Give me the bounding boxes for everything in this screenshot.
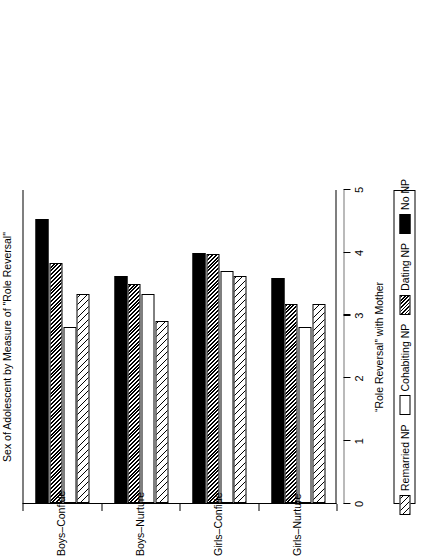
category-tick <box>101 504 102 511</box>
category-tick <box>336 504 337 511</box>
figure-root: Sex of Adolescent by Measure of "Role Re… <box>0 0 423 556</box>
bar <box>312 304 325 503</box>
bar <box>127 284 140 503</box>
bar <box>233 276 246 503</box>
value-axis-title: “Role Reversal” with Mother <box>372 190 384 504</box>
value-tick <box>343 440 350 441</box>
white-swatch-icon <box>399 395 410 415</box>
value-tick <box>343 252 350 253</box>
bar <box>192 253 205 503</box>
bar <box>155 321 168 503</box>
category-axis-title: Sex of Adolescent by Measure of "Role Re… <box>0 190 12 504</box>
value-tick <box>343 314 350 315</box>
bar <box>284 304 297 503</box>
category-tick <box>22 504 23 511</box>
value-tick-label: 0 <box>352 489 364 519</box>
category-label: Girls–Confide <box>211 510 223 556</box>
bar <box>114 276 127 503</box>
legend-label: No NP <box>398 179 410 210</box>
bar <box>63 327 76 503</box>
value-tick-label: 4 <box>352 238 364 268</box>
value-tick <box>343 503 350 504</box>
bar <box>271 278 284 503</box>
value-tick-label: 5 <box>352 175 364 205</box>
plot-area <box>22 190 336 504</box>
category-label: Girls–Nurture <box>290 510 302 556</box>
value-tick-label: 2 <box>352 363 364 393</box>
category-tick <box>258 504 259 511</box>
value-tick-label: 3 <box>352 301 364 331</box>
value-tick-label: 1 <box>352 426 364 456</box>
legend: Remarried NP Cohabiting NP Dating NP No … <box>393 190 415 504</box>
bar <box>298 327 311 503</box>
category-label: Boys–Confide <box>54 510 66 556</box>
value-tick <box>343 189 350 190</box>
legend-label: Remarried NP <box>398 424 410 491</box>
value-tick <box>343 377 350 378</box>
value-axis-line <box>343 190 344 504</box>
legend-label: Cohabiting NP <box>398 324 410 392</box>
category-label: Boys–Nurture <box>133 510 145 556</box>
rotated-chart-canvas: Sex of Adolescent by Measure of "Role Re… <box>0 0 423 556</box>
legend-item-nonp: No NP <box>398 179 410 234</box>
bar <box>141 294 154 503</box>
bar <box>220 271 233 503</box>
category-tick <box>179 504 180 511</box>
hatch-dense-swatch-icon <box>399 295 410 315</box>
hatch-wide-swatch-icon <box>399 495 410 515</box>
bar <box>49 263 62 503</box>
legend-item-remarried: Remarried NP <box>398 424 410 515</box>
bar <box>76 294 89 503</box>
bar <box>35 219 48 503</box>
legend-item-cohabiting: Cohabiting NP <box>398 324 410 416</box>
legend-item-dating: Dating NP <box>398 243 410 315</box>
black-swatch-icon <box>399 214 410 234</box>
bar <box>206 254 219 503</box>
legend-label: Dating NP <box>398 243 410 291</box>
